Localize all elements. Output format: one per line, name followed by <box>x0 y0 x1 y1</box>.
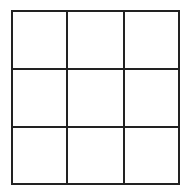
grid-cell-r3-c2[interactable] <box>68 128 125 183</box>
grid-cell-r1-c1[interactable] <box>13 12 68 70</box>
three-by-three-grid <box>11 10 180 185</box>
grid-cell-r1-c2[interactable] <box>68 12 125 70</box>
canvas <box>0 0 190 193</box>
grid-cell-r3-c3[interactable] <box>125 128 178 183</box>
grid-cell-r2-c3[interactable] <box>125 70 178 128</box>
grid-cell-r2-c2[interactable] <box>68 70 125 128</box>
grid-cell-r1-c3[interactable] <box>125 12 178 70</box>
grid-cell-r3-c1[interactable] <box>13 128 68 183</box>
grid-cell-r2-c1[interactable] <box>13 70 68 128</box>
